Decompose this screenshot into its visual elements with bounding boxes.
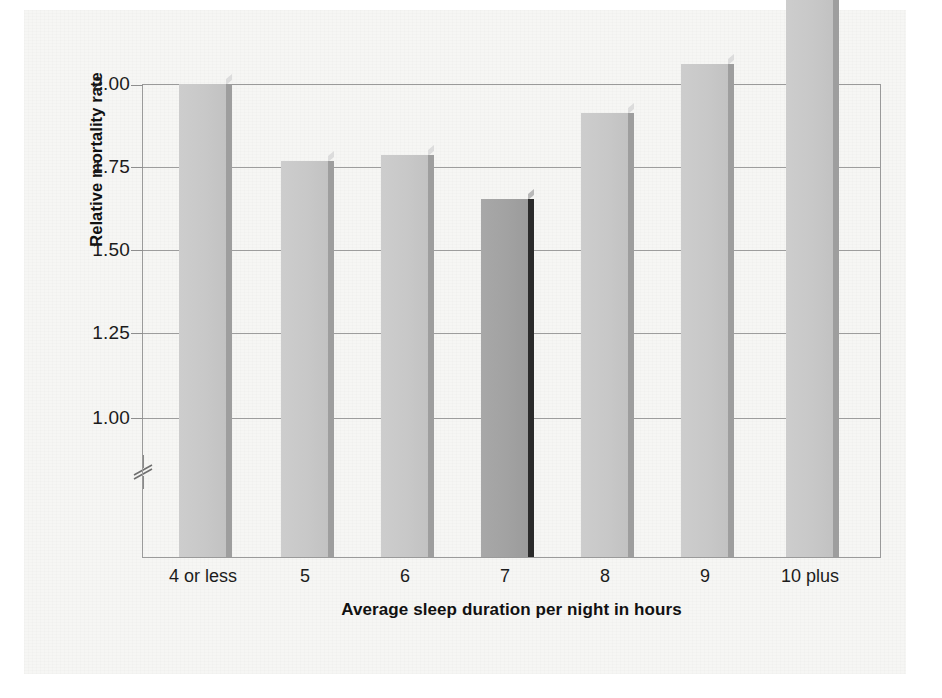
bar-side — [328, 161, 334, 557]
bar-face — [581, 113, 628, 557]
y-tick-label-2-00: 2.00 — [92, 73, 130, 95]
bar-side — [428, 155, 434, 557]
x-tick-label-7: 7 — [500, 566, 510, 587]
y-tick-1-75 — [131, 167, 143, 168]
y-tick-label-1-00: 1.00 — [92, 407, 130, 429]
y-tick-label-1-50: 1.50 — [92, 239, 130, 261]
x-tick-label-9: 9 — [700, 566, 710, 587]
bar-side — [833, 0, 839, 557]
bar-10-plus[interactable] — [786, 0, 833, 557]
bar-8[interactable] — [581, 113, 628, 557]
bar-face — [786, 0, 833, 557]
x-tick-label-10-plus: 10 plus — [781, 566, 839, 587]
y-tick-1-00 — [131, 418, 143, 419]
x-tick-label-8: 8 — [600, 566, 610, 587]
y-tick-1-25 — [131, 333, 143, 334]
chart-page: Relative mortality rate 2.00 1.75 1.50 1… — [0, 0, 942, 698]
bar-face — [481, 199, 528, 557]
y-tick-1-50 — [131, 250, 143, 251]
bar-6[interactable] — [381, 155, 428, 557]
bar-5[interactable] — [281, 161, 328, 557]
y-tick-label-1-25: 1.25 — [92, 322, 130, 344]
bar-9[interactable] — [681, 64, 728, 557]
gridline-1-75 — [143, 167, 880, 168]
bar-side — [528, 199, 534, 557]
x-tick-label-5: 5 — [300, 566, 310, 587]
bar-side — [728, 64, 734, 557]
bar-face — [681, 64, 728, 557]
plot-area — [142, 84, 881, 558]
x-axis-title: Average sleep duration per night in hour… — [142, 600, 881, 620]
bar-side — [226, 84, 232, 557]
x-tick-label-6: 6 — [400, 566, 410, 587]
bar-side — [628, 113, 634, 557]
bar-4-or-less[interactable] — [179, 84, 226, 557]
bar-face — [281, 161, 328, 557]
bar-face — [381, 155, 428, 557]
bar-7-highlight[interactable] — [481, 199, 528, 557]
x-tick-label-4-or-less: 4 or less — [169, 566, 237, 587]
y-tick-2-00 — [131, 85, 143, 86]
bar-face — [179, 84, 226, 557]
y-tick-label-1-75: 1.75 — [92, 156, 130, 178]
y-axis-tick-labels: 2.00 1.75 1.50 1.25 1.00 — [52, 84, 130, 558]
